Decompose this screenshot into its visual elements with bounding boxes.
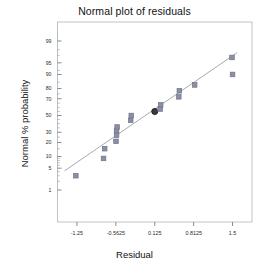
svg-text:99: 99: [46, 38, 52, 44]
svg-text:90: 90: [46, 71, 52, 77]
data-point: [230, 55, 235, 60]
data-point: [74, 173, 79, 178]
plot-frame: [58, 22, 253, 222]
data-point: [152, 108, 158, 114]
svg-text:10: 10: [46, 153, 52, 159]
svg-text:95: 95: [46, 60, 52, 66]
plot-canvas: 15102030507080909599 -1.25-0.56250.1250.…: [0, 0, 269, 269]
data-point: [192, 83, 197, 88]
data-points: [74, 55, 235, 178]
data-point: [101, 156, 106, 161]
data-point: [115, 125, 120, 130]
data-point: [176, 95, 181, 100]
svg-text:80: 80: [46, 85, 52, 91]
data-point: [230, 72, 235, 77]
svg-text:-0.5625: -0.5625: [107, 230, 125, 236]
svg-text:70: 70: [46, 96, 52, 102]
data-point: [114, 133, 119, 138]
svg-text:30: 30: [46, 129, 52, 135]
data-point: [177, 88, 182, 93]
svg-text:1: 1: [49, 187, 52, 193]
data-point: [114, 139, 119, 144]
reference-line: [65, 53, 238, 171]
data-point: [129, 113, 134, 118]
svg-text:5: 5: [49, 165, 52, 171]
svg-text:20: 20: [46, 139, 52, 145]
svg-text:1.5: 1.5: [229, 230, 237, 236]
x-axis-ticks: -1.25-0.56250.1250.81251.5: [71, 222, 236, 236]
data-point: [102, 146, 107, 151]
data-point: [128, 118, 133, 123]
svg-text:0.8125: 0.8125: [185, 230, 202, 236]
svg-text:-1.25: -1.25: [71, 230, 83, 236]
svg-text:50: 50: [46, 112, 52, 118]
svg-text:0.125: 0.125: [148, 230, 162, 236]
normal-probability-plot-figure: Normal plot of residuals Normal % probab…: [0, 0, 269, 269]
y-axis-ticks: 15102030507080909599: [46, 31, 62, 196]
data-point: [158, 103, 163, 108]
